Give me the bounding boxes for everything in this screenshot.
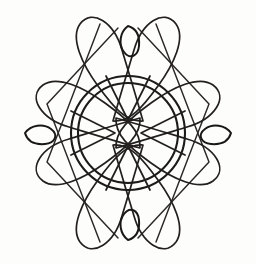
north-lobe-pair (76, 17, 179, 121)
rosette-line-drawing: Four-fold symmetric looped rosette line … (0, 0, 256, 264)
figure-canvas: Four-fold symmetric looped rosette line … (0, 0, 256, 264)
west-lobe-pair (25, 81, 140, 184)
west-cusp-loop (25, 126, 55, 145)
south-lobe-pair (76, 145, 179, 249)
east-cusp-loop (201, 126, 231, 145)
east-lobe-pair (116, 81, 231, 184)
inner-ring (78, 83, 178, 183)
